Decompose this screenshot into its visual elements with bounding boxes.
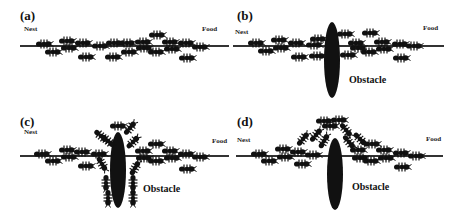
ant-icon [45,157,63,166]
panel-b-drawing [231,0,462,108]
nest-label: Nest [24,25,37,33]
ant-icon [179,165,197,174]
ant-icon [121,48,139,57]
ant-icon [310,35,328,44]
ant-icon [275,145,293,154]
ant-icon [162,147,180,156]
food-label: Food [202,25,217,33]
nest-label: Nest [237,136,250,144]
ant-icon [408,152,426,161]
ant-icon [104,190,113,208]
ant-icon [192,153,210,162]
ant-icon [78,162,96,171]
ant-icon [149,31,167,40]
ant-icon [192,43,210,52]
nest-label: Nest [24,128,37,136]
ant-icon [258,47,276,56]
ant-icon [148,140,166,149]
ant-icon [406,42,424,51]
ant-icon [105,53,123,62]
panel-a: (a) Nest Food [0,0,231,108]
ant-icon [376,146,394,155]
ant-icon [129,175,138,193]
ant-icon [364,140,382,149]
obstacle-shape [327,138,343,210]
panel-label: (d) [237,114,253,130]
ant-icon [309,52,327,61]
ant-icon [294,129,312,148]
food-label: Food [423,24,438,32]
ant-icon [273,44,291,53]
ant-icon [179,54,197,63]
nest-label: Nest [235,28,248,36]
obstacle-label: Obstacle [349,74,386,85]
ant-icon [362,29,380,38]
ant-icon [102,175,111,193]
ant-icon [129,190,138,208]
panel-c: (c) Nest Food Obstacle [0,108,231,216]
ant-icon [271,36,289,45]
ant-icon [261,157,279,166]
food-label: Food [212,137,227,145]
panel-label: (b) [237,8,253,24]
ant-icon [394,163,412,172]
panel-b: (b) Nest Food Obstacle [231,0,462,108]
panel-d: (d) Nest Food Obstacle [231,108,462,216]
panel-c-drawing [0,108,231,217]
food-label: Food [426,135,441,143]
ant-icon [337,30,355,39]
ant-icon [378,154,396,163]
ant-icon [78,53,96,62]
ant-icon [110,122,128,131]
ant-icon [34,150,52,159]
ant-icon [291,53,309,62]
ant-icon [393,54,411,63]
obstacle-label: Obstacle [352,181,389,192]
ant-icon [59,37,77,46]
ant-icon [294,160,312,169]
ant-icon [59,146,77,155]
panel-d-drawing [231,108,462,217]
panel-label: (a) [20,8,35,24]
ant-icon [36,40,54,49]
obstacle-label: Obstacle [143,183,180,194]
ant-icon [45,48,63,57]
ant-icon [305,151,323,160]
